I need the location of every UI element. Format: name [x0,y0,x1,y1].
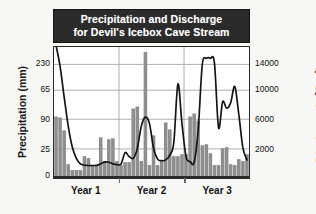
precipitation-bar-33 [188,116,192,176]
y-axis-right-tick-2: 6000 [255,114,295,124]
precipitation-bar-11 [99,137,103,176]
y-axis-right-tick-3: 2000 [255,144,295,154]
precipitation-bar-6 [79,170,83,176]
precipitation-bar-22 [144,52,148,176]
y-axis-right-title-text: Discharge (m [314,96,316,163]
precipitation-bar-17 [123,162,127,176]
x-axis-label-2: Year 2 [117,185,187,196]
y-axis-right-tick-1: 10000 [255,84,295,94]
y-axis-left-tick-3: 25 [20,144,50,154]
precipitation-bar-18 [127,162,131,176]
precipitation-bar-44 [233,165,237,176]
x-axis-label-3: Year 3 [182,185,252,196]
chart-title-line-1: Precipitation and Discharge [81,13,223,26]
precipitation-bar-3 [66,164,70,176]
precipitation-bar-8 [87,158,91,176]
y-axis-right-title-mid: /km [314,74,316,92]
precipitation-bar-15 [115,161,119,176]
x-axis-label-1: Year 1 [51,185,121,196]
precipitation-bar-23 [148,165,152,176]
x-axis-period-tick-1 [184,178,185,183]
y-axis-left-tick-1: 65 [20,84,50,94]
y-axis-right-title-end: ) [314,66,316,70]
precipitation-bar-9 [91,165,95,176]
precipitation-bar-26 [160,161,164,176]
y-axis-left-tick-4: 0 [20,170,50,180]
precipitation-bar-1 [58,117,62,176]
y-axis-right-superscript-3: 3 [314,92,316,96]
precipitation-bar-16 [119,165,123,176]
x-axis-line [53,177,250,179]
precipitation-bar-10 [95,165,99,176]
plot-area [53,46,250,177]
precipitation-bar-19 [131,109,135,176]
x-axis-period-tick-0 [119,178,120,183]
precipitation-bar-4 [70,170,74,176]
chart-title-line-2: for Devil's Icebox Cave Stream [73,26,229,39]
precipitation-bar-39 [213,165,217,176]
precipitation-bar-45 [237,159,241,176]
precipitation-bars [54,52,249,176]
precipitation-bar-41 [221,148,225,176]
plot-canvas [54,47,249,176]
y-axis-right-superscript-2: 2 [314,70,316,74]
precipitation-bar-40 [217,165,221,176]
precipitation-bar-21 [140,161,144,176]
precipitation-bar-37 [205,144,209,176]
precipitation-bar-29 [172,156,176,176]
chart-figure: Precipitation (mm) Discharge (m3/km2) Pr… [0,0,316,214]
y-axis-left-tick-2: 90 [20,114,50,124]
precipitation-bar-0 [54,116,58,176]
precipitation-bar-2 [62,130,66,176]
precipitation-bar-13 [107,139,111,176]
precipitation-bar-38 [209,153,213,176]
precipitation-bar-27 [164,122,168,176]
precipitation-bar-5 [75,170,79,176]
y-axis-right-tick-0: 14000 [255,58,295,68]
precipitation-bar-42 [225,147,229,176]
precipitation-bar-12 [103,161,107,176]
precipitation-bar-14 [111,138,115,176]
precipitation-bar-34 [192,113,196,176]
precipitation-bar-31 [180,154,184,176]
precipitation-bar-43 [229,164,233,176]
precipitation-bar-25 [156,165,160,176]
precipitation-bar-30 [176,156,180,176]
y-axis-right-title: Discharge (m3/km2) [314,48,316,180]
precipitation-bar-46 [241,161,245,176]
chart-title-banner: Precipitation and Discharge for Devil's … [53,9,250,43]
y-axis-left-title: Precipitation (mm) [16,52,28,172]
precipitation-bar-36 [200,145,204,176]
y-axis-left-tick-0: 230 [20,58,50,68]
